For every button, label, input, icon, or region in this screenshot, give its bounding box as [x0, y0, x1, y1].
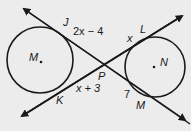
- label-center-m: M: [29, 51, 39, 63]
- label-point-l: L: [140, 23, 146, 35]
- label-point-m-tangent: M: [136, 99, 146, 111]
- tangent-circles-diagram: J 2x − 4 M K x + 3 P x L N 7 M: [0, 0, 191, 131]
- label-center-n: N: [160, 56, 168, 68]
- label-point-k: K: [56, 94, 64, 106]
- label-segment-lp: x: [126, 32, 133, 44]
- label-segment-kp: x + 3: [75, 82, 101, 94]
- label-segment-jp: 2x − 4: [73, 25, 103, 37]
- label-segment-mp: 7: [124, 88, 130, 100]
- center-n-dot: [153, 66, 156, 69]
- center-m-dot: [40, 61, 43, 64]
- label-point-p: P: [98, 70, 106, 82]
- label-point-j: J: [62, 16, 69, 28]
